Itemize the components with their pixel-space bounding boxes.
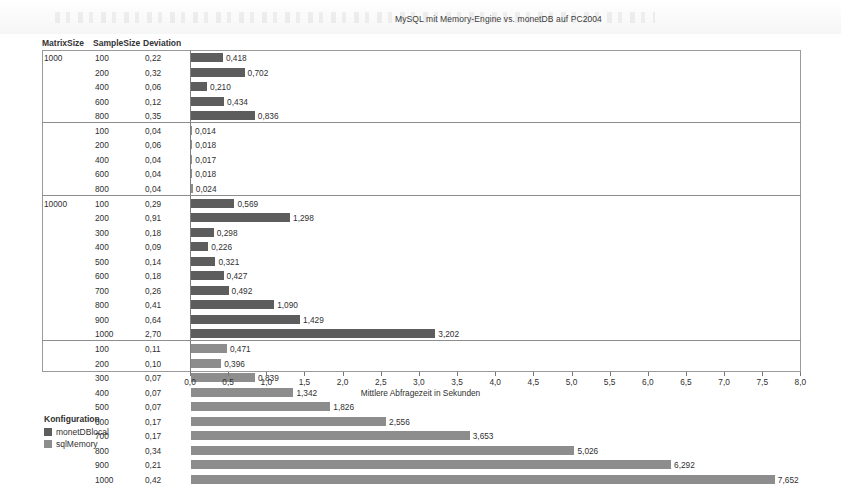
group-separator <box>42 122 801 123</box>
bar <box>191 344 227 353</box>
bar <box>191 315 300 324</box>
bar-value-label: 0,702 <box>248 68 269 78</box>
cell-samplesize: 200 <box>95 140 109 150</box>
x-axis-tick-label: 0,0 <box>184 377 196 387</box>
x-axis-tick <box>800 372 801 376</box>
bar <box>191 53 223 62</box>
bar <box>191 82 207 91</box>
bar <box>191 242 208 251</box>
cell-deviation: 0,22 <box>145 53 161 63</box>
bar-value-label: 0,427 <box>227 271 248 281</box>
column-header-deviation: Deviation <box>143 38 181 48</box>
x-axis-tick-label: 5,5 <box>604 377 616 387</box>
x-axis-tick <box>419 372 420 376</box>
cell-deviation: 0,18 <box>145 228 161 238</box>
bar-value-label: 0,836 <box>258 111 279 121</box>
x-axis-tick-label: 6,5 <box>680 377 692 387</box>
bar <box>191 228 214 237</box>
cell-samplesize: 800 <box>95 184 109 194</box>
cell-samplesize: 700 <box>95 286 109 296</box>
bar <box>191 286 229 295</box>
x-axis-tick <box>457 372 458 376</box>
bar-value-label: 0,298 <box>217 228 238 238</box>
x-axis-tick-label: 4,0 <box>489 377 501 387</box>
cell-samplesize: 100 <box>95 199 109 209</box>
cell-deviation: 0,07 <box>145 402 161 412</box>
cell-deviation: 0,91 <box>145 213 161 223</box>
bar <box>191 431 470 440</box>
x-axis-tick-label: 2,0 <box>337 377 349 387</box>
bar-value-label: 0,434 <box>227 97 248 107</box>
chart-row: 6000,180,427 <box>0 269 841 283</box>
x-axis-tick-label: 7,5 <box>756 377 768 387</box>
column-header-matrixsize: MatrixSize <box>42 38 84 48</box>
chart-row: 7000,173,653 <box>0 429 841 443</box>
bar-value-label: 0,396 <box>224 359 245 369</box>
x-axis-tick-label: 4,5 <box>528 377 540 387</box>
bar-value-label: 2,556 <box>389 417 410 427</box>
bar-value-label: 5,026 <box>577 446 598 456</box>
bar <box>191 126 192 135</box>
chart-row: 6000,120,434 <box>0 95 841 109</box>
bar <box>191 140 192 149</box>
chart-row: 6000,040,018 <box>0 167 841 181</box>
bar-value-label: 3,202 <box>438 329 459 339</box>
cell-deviation: 0,42 <box>145 475 161 485</box>
bar-value-label: 0,471 <box>230 344 251 354</box>
cell-deviation: 0,04 <box>145 155 161 165</box>
cell-matrixsize: 10000 <box>44 199 67 209</box>
bar <box>191 97 224 106</box>
cell-deviation: 0,34 <box>145 446 161 456</box>
bar-value-label: 7,652 <box>778 475 799 485</box>
bar-value-label: 3,653 <box>473 431 494 441</box>
bar <box>191 417 386 426</box>
chart-row: 1000,110,471 <box>0 342 841 356</box>
cell-deviation: 0,18 <box>145 271 161 281</box>
chart-row: 4000,060,210 <box>0 80 841 94</box>
cell-deviation: 0,11 <box>145 344 161 354</box>
bar <box>191 475 775 484</box>
x-axis-tick-label: 5,0 <box>566 377 578 387</box>
bar <box>191 111 255 120</box>
bar-value-label: 0,018 <box>195 169 216 179</box>
column-headers: MatrixSize SampleSize Deviation <box>0 38 841 50</box>
bar <box>191 155 192 164</box>
legend-item-sqlmemory[interactable]: sqlMemory <box>44 439 109 449</box>
chart-row: 2000,320,702 <box>0 66 841 80</box>
cell-deviation: 0,04 <box>145 184 161 194</box>
bar-value-label: 1,298 <box>293 213 314 223</box>
bar-value-label: 0,014 <box>195 126 216 136</box>
bar-value-label: 0,226 <box>211 242 232 252</box>
cell-deviation: 0,32 <box>145 68 161 78</box>
group-separator <box>42 195 801 196</box>
cell-samplesize: 400 <box>95 242 109 252</box>
x-axis-tick <box>724 372 725 376</box>
cell-samplesize: 300 <box>95 228 109 238</box>
chart-row: 2000,100,396 <box>0 357 841 371</box>
cell-samplesize: 100 <box>95 126 109 136</box>
chart-row: 6000,172,556 <box>0 415 841 429</box>
bar-value-label: 0,492 <box>232 286 253 296</box>
x-axis-tick-label: 6,0 <box>642 377 654 387</box>
bar <box>191 169 192 178</box>
cell-samplesize: 600 <box>95 169 109 179</box>
legend-item-monetdblocal[interactable]: monetDBlocal <box>44 427 109 437</box>
x-axis-tick <box>190 372 191 376</box>
cell-deviation: 0,17 <box>145 417 161 427</box>
cell-deviation: 0,64 <box>145 315 161 325</box>
bar-value-label: 0,024 <box>196 184 217 194</box>
chart-row: 9000,641,429 <box>0 313 841 327</box>
legend-label-monetdblocal: monetDBlocal <box>56 427 109 437</box>
cell-samplesize: 600 <box>95 97 109 107</box>
chart-row: 10000,427,652 <box>0 473 841 487</box>
bar <box>191 184 193 193</box>
bar-value-label: 1,826 <box>333 402 354 412</box>
chart-row: 1000,040,014 <box>0 124 841 138</box>
bar <box>191 359 221 368</box>
chart-row: 5000,140,321 <box>0 255 841 269</box>
bar <box>191 329 435 338</box>
bar <box>191 271 224 280</box>
chart-row: 4000,090,226 <box>0 240 841 254</box>
cell-deviation: 0,41 <box>145 300 161 310</box>
chart-row: 3000,180,298 <box>0 226 841 240</box>
